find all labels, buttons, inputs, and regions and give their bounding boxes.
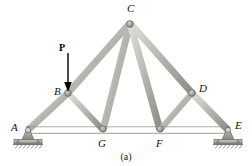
roller-support-hatching — [215, 145, 243, 149]
figure-caption: (a) — [0, 152, 252, 162]
roller-support-bolt-left — [217, 140, 220, 143]
node-label-A: A — [11, 122, 18, 133]
load-label-P: P — [59, 43, 65, 53]
node-label-F: F — [156, 138, 163, 149]
roller-support-pin — [225, 127, 230, 132]
pin-support-bolt-left — [17, 140, 20, 143]
truss-figure: P A B C D E F G (a) — [0, 0, 252, 166]
member-B-G — [68, 93, 103, 130]
pin-support-bolt-right — [37, 140, 40, 143]
pin-support-pin — [25, 127, 30, 132]
roller-support-bolt-right — [237, 140, 240, 143]
joint-D — [189, 90, 196, 97]
joint-G — [100, 126, 106, 132]
node-label-G: G — [98, 138, 106, 149]
truss-members — [26, 23, 230, 133]
node-label-C: C — [127, 3, 134, 14]
node-label-E: E — [235, 120, 242, 131]
member-D-F — [160, 93, 192, 130]
truss-diagram-svg — [0, 0, 252, 166]
member-D-E — [192, 93, 228, 130]
node-label-B: B — [54, 86, 61, 97]
node-label-D: D — [199, 83, 207, 94]
pin-support-hatching — [15, 145, 43, 149]
joint-F — [157, 126, 163, 132]
joint-C — [127, 21, 134, 28]
